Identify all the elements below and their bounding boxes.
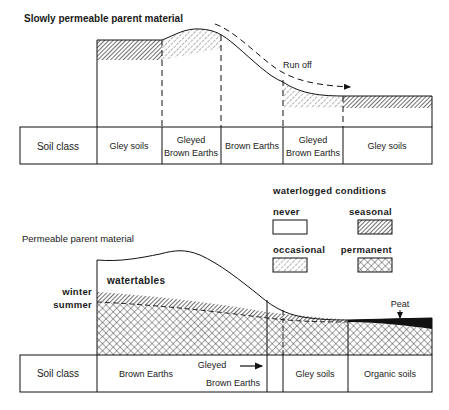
top-panel: Slowly permeable parent material Run off bbox=[20, 13, 432, 164]
winter-label: winter bbox=[61, 286, 92, 297]
top-cell-2-line1: Gleyed bbox=[177, 135, 206, 145]
bottom-cell-3: Gley soils bbox=[295, 369, 335, 379]
legend-never-label: never bbox=[273, 206, 300, 217]
legend-title: waterlogged conditions bbox=[272, 185, 386, 196]
bottom-cell-4: Organic soils bbox=[364, 369, 417, 379]
runoff-arrow-icon bbox=[215, 24, 350, 87]
summer-label: summer bbox=[53, 299, 92, 310]
bottom-cell-2-line1: Gleyed bbox=[198, 360, 227, 370]
bottom-panel-title: Permeable parent material bbox=[22, 233, 134, 244]
top-panel-title: Slowly permeable parent material bbox=[24, 13, 183, 24]
peat-label: Peat bbox=[391, 299, 410, 309]
top-landform bbox=[97, 29, 432, 127]
top-cell-4-line2: Brown Earths bbox=[286, 148, 341, 158]
bottom-cell-2-line2: Brown Earths bbox=[206, 378, 261, 388]
top-cell-2-line2: Brown Earths bbox=[164, 148, 219, 158]
legend-seasonal-swatch bbox=[358, 220, 392, 234]
runoff-label: Run off bbox=[283, 60, 312, 70]
legend: waterlogged conditions never seasonal oc… bbox=[272, 185, 393, 272]
legend-occasional-label: occasional bbox=[273, 244, 325, 255]
top-cell-5: Gley soils bbox=[367, 141, 407, 151]
legend-permanent-label: permanent bbox=[341, 244, 393, 255]
top-soil-table: Soil class Gley soils Gleyed Brown Earth… bbox=[20, 127, 432, 164]
legend-never-swatch bbox=[273, 220, 307, 234]
top-cell-3: Brown Earths bbox=[225, 141, 280, 151]
top-table-header: Soil class bbox=[37, 141, 79, 152]
top-cell-1: Gley soils bbox=[109, 141, 149, 151]
top-cell-4-line1: Gleyed bbox=[299, 135, 328, 145]
legend-occasional-swatch bbox=[273, 258, 307, 272]
watertables-label: watertables bbox=[106, 275, 165, 286]
legend-permanent-swatch bbox=[358, 258, 392, 272]
soil-drainage-diagram: Slowly permeable parent material Run off bbox=[0, 0, 449, 410]
bottom-cell-1: Brown Earths bbox=[119, 369, 174, 379]
bottom-panel: Permeable parent material watertables wi… bbox=[20, 233, 432, 392]
bottom-table-header: Soil class bbox=[37, 368, 79, 379]
legend-seasonal-label: seasonal bbox=[349, 206, 392, 217]
bottom-soil-table: Soil class Brown Earths Gleyed Brown Ear… bbox=[20, 355, 432, 392]
